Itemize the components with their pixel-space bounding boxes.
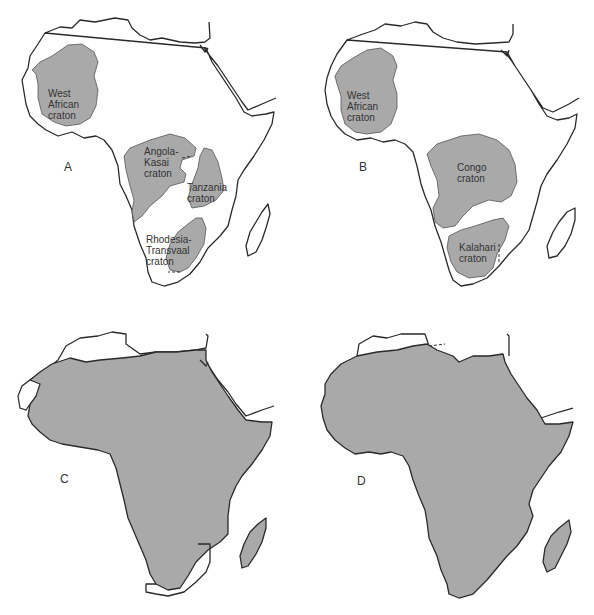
label-kalahari-craton: Kalahari craton xyxy=(459,242,496,264)
panel-letter-d: D xyxy=(357,474,366,488)
africa-map-b xyxy=(297,0,594,300)
panel-letter-b: B xyxy=(359,160,367,174)
label-rhodesia-transvaal-craton: Rhodesia- Transvaal craton xyxy=(146,234,192,267)
panel-b: West African craton Congo craton Kalahar… xyxy=(297,0,594,300)
madagascar xyxy=(547,208,575,258)
africa-filled-region xyxy=(321,344,573,598)
africa-map-c xyxy=(0,300,297,615)
label-west-african-craton: West African craton xyxy=(347,90,378,123)
panel-d: D xyxy=(297,300,594,615)
panel-c: C xyxy=(0,300,297,615)
madagascar xyxy=(240,518,266,568)
label-west-african-craton: West African craton xyxy=(48,88,79,121)
panel-letter-a: A xyxy=(64,160,72,174)
panel-letter-c: C xyxy=(60,472,69,486)
madagascar xyxy=(543,520,571,572)
label-angola-kasai-craton: Angola- Kasai craton xyxy=(144,146,178,179)
label-tanzania-craton: Tanzania craton xyxy=(187,182,227,204)
africa-map-d xyxy=(297,300,594,615)
madagascar xyxy=(246,204,270,256)
panel-a: West African craton Angola- Kasai craton… xyxy=(0,0,297,300)
africa-filled-region xyxy=(28,350,272,590)
label-congo-craton: Congo craton xyxy=(457,162,486,184)
